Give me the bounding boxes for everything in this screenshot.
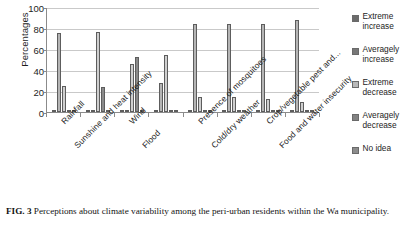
x-category-label: Flood bbox=[140, 128, 162, 150]
legend-label: No idea bbox=[363, 144, 392, 154]
bar bbox=[86, 110, 91, 112]
plot-area bbox=[46, 8, 319, 113]
bar-chart: Percentages 020406080100 RainfallSunshin… bbox=[0, 0, 419, 196]
legend-item[interactable]: Extremedecrease bbox=[352, 78, 397, 97]
bar bbox=[91, 110, 96, 112]
chart-legend: ExtremeincreaseAveragelyincreaseExtremed… bbox=[352, 12, 419, 187]
legend-swatch-icon bbox=[352, 81, 359, 88]
legend-swatch-icon bbox=[352, 147, 359, 154]
bar bbox=[222, 110, 227, 112]
legend-label-line: increase bbox=[363, 55, 400, 65]
legend-label-line: No idea bbox=[363, 144, 392, 154]
bar bbox=[159, 83, 164, 112]
bar bbox=[101, 87, 106, 112]
bar bbox=[120, 110, 125, 112]
bar bbox=[261, 24, 266, 112]
figure-container: Percentages 020406080100 RainfallSunshin… bbox=[0, 0, 419, 244]
caption-text: Perceptions about climate variability am… bbox=[34, 206, 389, 216]
bar bbox=[290, 110, 295, 112]
legend-item[interactable]: No idea bbox=[352, 144, 391, 154]
bar bbox=[300, 102, 305, 113]
y-tick-label: 40 bbox=[18, 66, 44, 77]
bar bbox=[164, 55, 169, 112]
bar bbox=[232, 97, 237, 112]
y-tick-label: 100 bbox=[18, 3, 44, 14]
bar bbox=[125, 110, 130, 112]
bar bbox=[193, 24, 198, 112]
legend-label-line: decrease bbox=[363, 121, 400, 131]
legend-label: Averagelydecrease bbox=[363, 111, 400, 130]
legend-swatch-icon bbox=[352, 15, 359, 22]
legend-label-line: increase bbox=[363, 22, 394, 32]
y-tick-label: 80 bbox=[18, 24, 44, 35]
bar bbox=[154, 110, 159, 112]
bar bbox=[266, 99, 271, 112]
legend-label: Extremedecrease bbox=[363, 78, 397, 97]
y-tick-label: 60 bbox=[18, 45, 44, 56]
legend-item[interactable]: Averagelydecrease bbox=[352, 111, 399, 130]
bar bbox=[188, 110, 193, 112]
bar bbox=[256, 110, 261, 112]
legend-item[interactable]: Averagelyincrease bbox=[352, 45, 399, 64]
y-tick-label: 20 bbox=[18, 87, 44, 98]
bar-group bbox=[183, 8, 217, 112]
bar bbox=[62, 86, 67, 112]
bar bbox=[96, 32, 101, 112]
caption-label: FIG. 3 bbox=[6, 206, 32, 216]
bar bbox=[57, 33, 62, 112]
figure-caption: FIG. 3 Perceptions about climate variabi… bbox=[6, 205, 413, 218]
legend-item[interactable]: Extremeincrease bbox=[352, 12, 394, 31]
legend-label: Averagelyincrease bbox=[363, 45, 400, 64]
legend-label: Extremeincrease bbox=[363, 12, 394, 31]
legend-label-line: decrease bbox=[363, 88, 397, 98]
y-axis-tick-labels: 020406080100 bbox=[16, 0, 44, 110]
bar-group bbox=[149, 8, 183, 112]
bar-group bbox=[47, 8, 81, 112]
bar bbox=[169, 110, 174, 112]
legend-swatch-icon bbox=[352, 114, 359, 121]
legend-swatch-icon bbox=[352, 48, 359, 55]
bar-groups bbox=[47, 8, 319, 112]
bar bbox=[198, 97, 203, 112]
bar bbox=[52, 110, 57, 112]
bar-group bbox=[81, 8, 115, 112]
bar bbox=[174, 110, 179, 112]
